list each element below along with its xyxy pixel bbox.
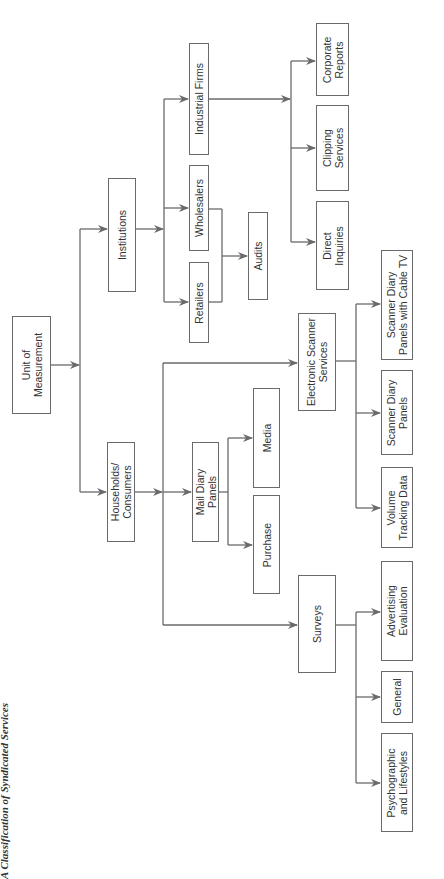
node-general: General — [381, 671, 413, 723]
node-label: Industrial Firms — [193, 63, 205, 135]
node-label: Clipping Services — [321, 128, 345, 168]
node-label: Psychographic and Lifestyles — [385, 748, 409, 817]
node-audits: Audits — [248, 212, 268, 300]
node-volume-tracking-data: Volume Tracking Data — [381, 467, 413, 548]
node-households-consumers: Households/ Consumers — [107, 442, 135, 542]
node-label: Households/ Consumers — [109, 463, 133, 521]
node-label: Corporate Reports — [321, 36, 345, 83]
node-label: Electronic Scanner Services — [305, 318, 329, 406]
node-retailers: Retailers — [189, 262, 209, 343]
node-corporate-reports: Corporate Reports — [316, 23, 349, 96]
node-electronic-scanner-services: Electronic Scanner Services — [298, 313, 336, 411]
node-psychographic-lifestyles: Psychographic and Lifestyles — [381, 733, 413, 832]
node-wholesalers: Wholesalers — [189, 165, 209, 251]
node-industrial-firms: Industrial Firms — [189, 43, 209, 155]
node-surveys: Surveys — [298, 575, 336, 673]
node-clipping-services: Clipping Services — [316, 105, 349, 191]
node-institutions: Institutions — [108, 178, 136, 292]
node-label: Mail Diary Panels — [194, 469, 218, 516]
node-unit-of-measurement: Unit of Measurement — [12, 316, 51, 414]
node-label: General — [391, 678, 403, 715]
node-scanner-diary-panels: Scanner Diary Panels — [381, 370, 413, 455]
node-label: Audits — [252, 241, 264, 270]
node-direct-inquiries: Direct Inquiries — [316, 201, 349, 290]
node-media: Media — [253, 388, 280, 488]
node-label: Media — [261, 424, 273, 453]
node-label: Volume Tracking Data — [385, 475, 409, 540]
node-mail-diary-panels: Mail Diary Panels — [192, 442, 219, 542]
node-label: Unit of Measurement — [20, 333, 44, 397]
node-label: Retailers — [193, 282, 205, 323]
node-scanner-diary-panels-cable-tv: Scanner Diary Panels with Cable TV — [381, 250, 413, 360]
node-purchase: Purchase — [253, 495, 280, 594]
node-label: Scanner Diary Panels with Cable TV — [385, 255, 409, 355]
connector-lines — [0, 0, 444, 879]
node-label: Surveys — [311, 605, 323, 643]
node-advertising-evaluation: Advertising Evaluation — [381, 561, 413, 661]
node-label: Institutions — [116, 210, 128, 260]
node-label: Advertising Evaluation — [385, 585, 409, 637]
node-label: Scanner Diary Panels — [385, 379, 409, 446]
node-label: Wholesalers — [193, 179, 205, 237]
node-label: Direct Inquiries — [321, 226, 345, 266]
node-label: Purchase — [261, 522, 273, 566]
classification-diagram: A Classification of Syndicated Services — [0, 0, 444, 879]
